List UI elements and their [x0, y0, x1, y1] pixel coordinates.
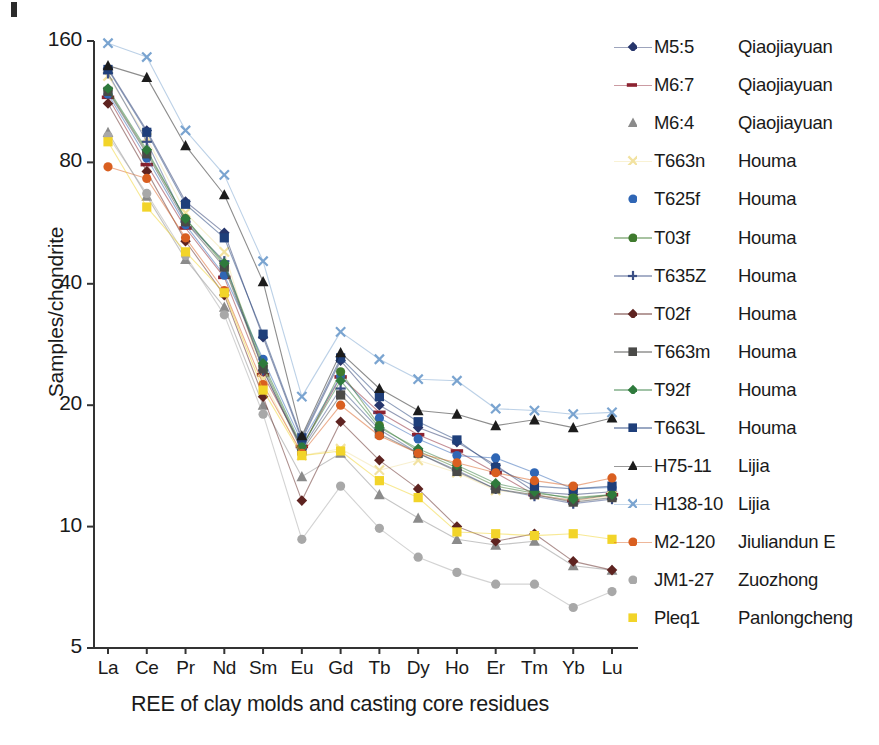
legend-glyph-diamond-icon: [623, 304, 637, 318]
series-layer: [102, 39, 618, 613]
y-tick-label: 160: [26, 27, 82, 51]
x-axis-title: REE of clay molds and casting core resid…: [60, 692, 620, 717]
legend-item-T635Z[interactable]: T635ZHouma: [612, 257, 879, 295]
legend-series-site: Panlongcheng: [738, 607, 853, 629]
x-tick-label-Lu: Lu: [590, 657, 634, 679]
legend-glyph-circle-icon: [623, 228, 637, 242]
legend-item-T03f[interactable]: T03fHouma: [612, 218, 879, 256]
legend-marker-icon: [612, 380, 654, 400]
x-tick-label-Eu: Eu: [280, 657, 324, 679]
y-axis-title: Samples/chondrite: [44, 192, 68, 432]
series-line: [108, 103, 612, 570]
legend-glyph-circle-icon: [623, 532, 637, 546]
legend-marker-icon: [612, 570, 654, 590]
legend-glyph-plus-icon: [623, 266, 637, 280]
legend-glyph-diamond-icon: [623, 37, 637, 51]
legend-item-M2-120[interactable]: M2-120Jiuliandun E: [612, 523, 879, 561]
legend-item-T663n[interactable]: T663nHouma: [612, 142, 879, 180]
series-T02f: [103, 98, 618, 575]
x-tick-label-Nd: Nd: [202, 657, 246, 679]
legend-item-T92f[interactable]: T92fHouma: [612, 371, 879, 409]
x-tick-label-Gd: Gd: [319, 657, 363, 679]
legend-series-name: T03f: [654, 227, 738, 249]
legend-glyph-triangle-icon: [623, 113, 637, 127]
series-M5:5: [103, 63, 618, 500]
legend-marker-icon: [612, 494, 654, 514]
legend-series-name: H138-10: [654, 493, 738, 515]
legend-series-site: Houma: [738, 150, 796, 172]
legend-glyph-triangle-icon: [623, 456, 637, 470]
chart-svg: [0, 0, 640, 700]
legend-glyph-x-icon: [623, 151, 637, 165]
legend-item-T625f[interactable]: T625fHouma: [612, 180, 879, 218]
legend-series-site: Houma: [738, 265, 796, 287]
legend-series-name: T663m: [654, 341, 738, 363]
series-T663L: [103, 65, 616, 494]
legend-item-H75-11[interactable]: H75-11Lijia: [612, 447, 879, 485]
legend-series-name: T625f: [654, 188, 738, 210]
legend-series-site: Houma: [738, 188, 796, 210]
legend-glyph-square-icon: [623, 342, 637, 356]
x-tick-label-La: La: [86, 657, 130, 679]
x-tick-label-Yb: Yb: [551, 657, 595, 679]
legend-item-JM1-27[interactable]: JM1-27Zuozhong: [612, 561, 879, 599]
legend-series-name: T92f: [654, 379, 738, 401]
legend-marker-icon: [612, 151, 654, 171]
legend-series-name: T663L: [654, 417, 738, 439]
legend-series-site: Lijia: [738, 455, 769, 477]
legend-series-site: Qiaojiayuan: [738, 112, 832, 134]
legend-item-T663m[interactable]: T663mHouma: [612, 333, 879, 371]
plot-area: 510204080160 LaCePrNdSmEuGdTbDyHoErTmYbL…: [0, 0, 640, 700]
legend-marker-icon: [612, 456, 654, 476]
legend-item-T663L[interactable]: T663LHouma: [612, 409, 879, 447]
legend-series-name: JM1-27: [654, 569, 738, 591]
x-tick-label-Pr: Pr: [164, 657, 208, 679]
legend-marker-icon: [612, 75, 654, 95]
legend-series-name: M5:5: [654, 36, 738, 58]
legend-item-M5:5[interactable]: M5:5Qiaojiayuan: [612, 28, 879, 66]
legend-series-site: Houma: [738, 341, 796, 363]
legend-series-name: M6:7: [654, 74, 738, 96]
series-T635Z: [103, 68, 617, 508]
x-tick-label-Ce: Ce: [125, 657, 169, 679]
legend-series-name: M6:4: [654, 112, 738, 134]
legend-marker-icon: [612, 532, 654, 552]
legend-item-M6:4[interactable]: M6:4Qiaojiayuan: [612, 104, 879, 142]
legend-marker-icon: [612, 608, 654, 628]
legend-series-site: Houma: [738, 227, 796, 249]
legend-glyph-circle-icon: [623, 570, 637, 584]
series-Pleq1: [103, 137, 616, 544]
legend-glyph-diamond-icon: [623, 380, 637, 394]
legend-marker-icon: [612, 113, 654, 133]
x-tick-label-Tb: Tb: [357, 657, 401, 679]
legend-series-name: T635Z: [654, 265, 738, 287]
legend-glyph-dash-icon: [623, 75, 637, 89]
legend-marker-icon: [612, 342, 654, 362]
legend-series-name: M2-120: [654, 531, 738, 553]
legend-marker-icon: [612, 304, 654, 324]
series-line: [108, 90, 612, 498]
legend-series-site: Houma: [738, 417, 796, 439]
legend-series-site: Qiaojiayuan: [738, 74, 832, 96]
y-tick-label: 80: [26, 148, 82, 172]
legend-item-T02f[interactable]: T02fHouma: [612, 295, 879, 333]
x-tick-label-Dy: Dy: [396, 657, 440, 679]
legend-series-site: Qiaojiayuan: [738, 36, 832, 58]
series-line: [108, 76, 612, 501]
figure-root: 510204080160 LaCePrNdSmEuGdTbDyHoErTmYbL…: [0, 0, 879, 745]
legend-series-site: Lijia: [738, 493, 769, 515]
legend-item-M6:7[interactable]: M6:7Qiaojiayuan: [612, 66, 879, 104]
legend-item-Pleq1[interactable]: Pleq1Panlongcheng: [612, 599, 879, 637]
legend: M5:5QiaojiayuanM6:7QiaojiayuanM6:4Qiaoji…: [612, 28, 879, 638]
legend-glyph-square-icon: [623, 608, 637, 622]
legend-item-H138-10[interactable]: H138-10Lijia: [612, 485, 879, 523]
legend-series-site: Houma: [738, 303, 796, 325]
legend-marker-icon: [612, 418, 654, 438]
series-line: [108, 97, 612, 500]
x-tick-label-Tm: Tm: [512, 657, 556, 679]
legend-series-name: T02f: [654, 303, 738, 325]
legend-series-name: Pleq1: [654, 607, 738, 629]
legend-marker-icon: [612, 189, 654, 209]
legend-series-site: Houma: [738, 379, 796, 401]
series-line: [108, 94, 612, 489]
